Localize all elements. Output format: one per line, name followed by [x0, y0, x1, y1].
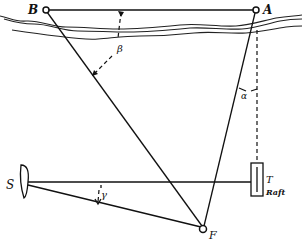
label-beta: β [116, 43, 123, 54]
label-gamma: γ [101, 189, 107, 200]
label-a: A [262, 3, 272, 17]
alpha-arrow-right [251, 89, 257, 91]
gamma-arc [98, 190, 99, 202]
point-a-marker [253, 7, 259, 13]
station-s-lens [20, 165, 28, 198]
label-b: B [27, 3, 38, 17]
point-f-marker [200, 226, 207, 233]
label-raft: Raft [265, 187, 285, 197]
arrowhead-icon [118, 11, 124, 17]
label-f: F [208, 229, 217, 242]
label-alpha: α [241, 91, 247, 101]
line-s-f [28, 185, 201, 227]
point-b-marker [43, 7, 49, 13]
label-t: T [266, 174, 274, 185]
shoreline [0, 15, 302, 39]
line-b-f [47, 12, 202, 226]
line-a-f [204, 13, 255, 226]
diagram-canvas: B A F S T Raft β α γ [0, 0, 302, 243]
label-s: S [6, 178, 14, 192]
